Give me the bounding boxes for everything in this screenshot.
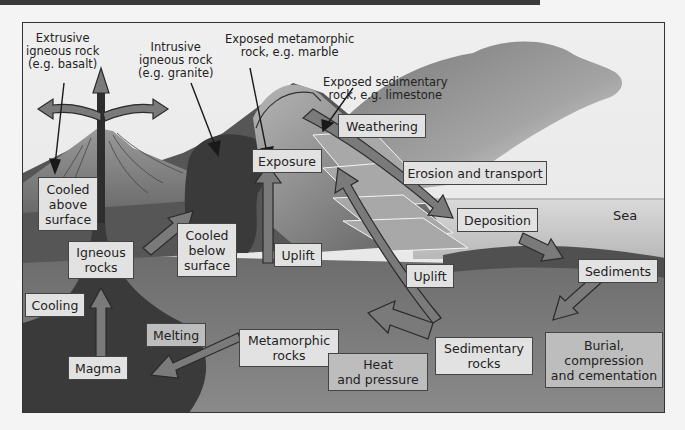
callout-intrusive-igneous: Intrusive igneous rock (e.g. granite) (138, 41, 213, 80)
stage-cooled-above-surface: Cooled above surface (38, 177, 98, 231)
sea-label: Sea (613, 208, 637, 223)
stage-cooling: Cooling (25, 293, 85, 317)
stage-exposure: Exposure (252, 149, 322, 173)
callout-exposed-metamorphic: Exposed metamorphic rock, e.g. marble (225, 33, 354, 59)
stage-erosion-transport: Erosion and transport (403, 161, 547, 185)
stage-burial-compression-cementation: Burial, compression and cementation (545, 332, 663, 388)
stage-uplift-1: Uplift (274, 243, 322, 267)
stage-metamorphic-rocks: Metamorphic rocks (239, 329, 339, 367)
top-bar (0, 0, 540, 5)
stage-melting: Melting (146, 323, 206, 347)
stage-sedimentary-rocks: Sedimentary rocks (435, 337, 533, 375)
callout-extrusive-igneous: Extrusive igneous rock (e.g. basalt) (26, 32, 99, 71)
rock-cycle-diagram: Extrusive igneous rock (e.g. basalt) Int… (22, 22, 665, 413)
callout-exposed-sedimentary: Exposed sedimentary rock, e.g. limestone (323, 76, 448, 102)
stage-igneous-rocks: Igneous rocks (68, 241, 134, 279)
stage-heat-and-pressure: Heat and pressure (328, 353, 428, 391)
stage-weathering: Weathering (338, 114, 426, 138)
stage-uplift-2: Uplift (406, 264, 454, 288)
stage-magma: Magma (68, 356, 128, 380)
stage-deposition: Deposition (457, 208, 538, 232)
stage-cooled-below-surface: Cooled below surface (177, 223, 237, 277)
stage-sediments: Sediments (578, 259, 658, 283)
